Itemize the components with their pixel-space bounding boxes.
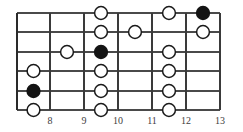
note-marker-open-s5-c2[interactable] [95,85,108,98]
fret-labels-group: 8910111213 [48,115,226,126]
note-marker-open-s2-c5[interactable] [197,26,210,39]
note-marker-open-s6-c4[interactable] [163,104,176,117]
fretboard-diagram: 8910111213 [0,0,243,132]
fretboard-canvas: 8910111213 [0,0,243,132]
note-marker-open-s6-c2[interactable] [95,104,108,117]
fret-lines-group [17,13,220,110]
fret-number-label-11: 11 [147,115,157,126]
note-marker-open-s2-c3[interactable] [129,26,142,39]
note-marker-open-s1-c4[interactable] [163,7,176,20]
fret-number-label-13: 13 [215,115,225,126]
note-marker-open-s6-c0[interactable] [27,104,40,117]
fret-number-label-9: 9 [82,115,87,126]
note-marker-open-s4-c0[interactable] [27,65,40,78]
note-marker-open-s5-c4[interactable] [163,85,176,98]
fret-number-label-8: 8 [48,115,53,126]
fret-number-label-12: 12 [181,115,191,126]
fret-number-label-10: 10 [113,115,123,126]
note-marker-open-s4-c2[interactable] [95,65,108,78]
note-marker-filled-s3-c2[interactable] [95,46,108,59]
note-marker-filled-s5-c0[interactable] [27,85,40,98]
note-marker-open-s2-c2[interactable] [95,26,108,39]
note-marker-filled-s1-c5[interactable] [197,7,210,20]
note-marker-open-s3-c4[interactable] [163,46,176,59]
note-marker-open-s3-c1[interactable] [61,46,74,59]
note-marker-open-s1-c2[interactable] [95,7,108,20]
note-marker-open-s4-c4[interactable] [163,65,176,78]
